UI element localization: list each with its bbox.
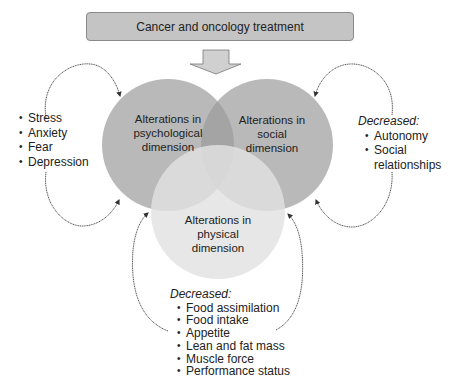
cancer-treatment-label: Cancer and oncology treatment	[136, 20, 303, 34]
physical-decreased-heading: Decreased:	[170, 287, 283, 302]
list-item: Stress	[19, 111, 89, 126]
social-label: Alterations in social dimension	[232, 113, 312, 155]
cancer-treatment-box: Cancer and oncology treatment	[86, 12, 354, 41]
social-decreased-block: Decreased: Autonomy Social relationships	[358, 114, 441, 172]
list-item: Performance status	[177, 365, 290, 378]
social-decreased-list: Autonomy Social	[365, 129, 448, 158]
left-lower-curved-arrow	[46, 172, 119, 226]
physical-circle	[151, 145, 285, 279]
list-item: Appetite	[177, 327, 290, 340]
list-item: Fear	[19, 140, 89, 155]
physical-label: Alterations in physical dimension	[178, 213, 258, 255]
list-item: Depression	[19, 155, 89, 170]
list-item: Social	[365, 143, 448, 158]
list-item-continuation: relationships	[358, 158, 441, 173]
list-item: Anxiety	[19, 126, 89, 141]
psychological-symptoms-list: Stress Anxiety Fear Depression	[19, 111, 89, 169]
physical-decreased-list: Food assimilation Food intake Appetite L…	[177, 302, 290, 379]
list-item: Lean and fat mass	[177, 340, 290, 353]
down-arrow-icon	[190, 50, 241, 74]
physical-decreased-block: Decreased: Food assimilation Food intake…	[170, 287, 283, 378]
social-decreased-heading: Decreased:	[358, 114, 441, 129]
psychological-label: Alterations in psychological dimension	[128, 112, 208, 154]
right-upper-curved-arrow	[315, 64, 392, 115]
right-lower-curved-arrow	[316, 172, 392, 227]
list-item: Autonomy	[365, 129, 448, 144]
left-upper-curved-arrow	[45, 64, 120, 118]
